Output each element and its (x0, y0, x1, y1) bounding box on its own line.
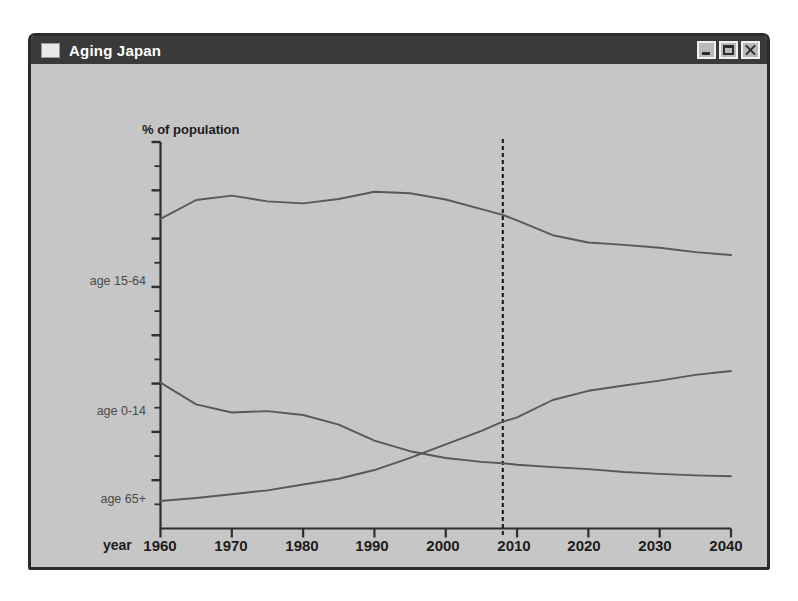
window-controls (697, 41, 760, 59)
window-title-bar[interactable]: Aging Japan (31, 36, 767, 64)
plot-canvas (31, 64, 767, 567)
minimize-button[interactable] (697, 41, 716, 59)
series-line-age-15-64 (161, 192, 732, 255)
maximize-icon (723, 45, 734, 55)
page-root: Aging Japan % of population year age 15-… (0, 0, 798, 601)
y-axis-ticks (152, 142, 161, 504)
window-icon (41, 43, 60, 58)
application-window: Aging Japan % of population year age 15-… (28, 33, 770, 570)
line-chart: % of population year age 15-64 age 0-14 … (31, 64, 767, 567)
minimize-icon (702, 52, 710, 55)
maximize-button[interactable] (719, 41, 738, 59)
x-axis-ticks (161, 529, 732, 538)
window-client-area: % of population year age 15-64 age 0-14 … (31, 64, 767, 567)
close-button[interactable] (741, 41, 760, 59)
series-line-age-65- (161, 371, 732, 501)
window-title: Aging Japan (69, 42, 161, 59)
series-line-age-0-14 (161, 383, 732, 477)
data-series-lines (161, 192, 732, 501)
